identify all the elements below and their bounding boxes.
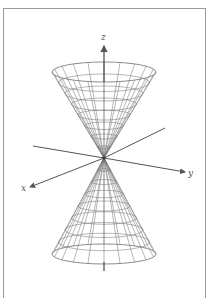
x-axis-arrow — [30, 158, 104, 187]
cone-mesh — [52, 62, 156, 264]
z-axis-label: z — [100, 32, 106, 42]
x-axis-label: x — [21, 183, 26, 193]
y-axis-negative — [33, 146, 104, 158]
y-axis-label: y — [187, 168, 194, 178]
y-axis-arrow — [104, 158, 185, 172]
